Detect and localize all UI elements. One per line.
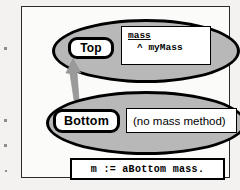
figure-frame: Top mass ^ myMass Bottom (no mass method… xyxy=(21,6,230,178)
class-label-bottom: Bottom xyxy=(53,109,120,133)
statement-box: m := aBottom mass. xyxy=(70,158,225,180)
method-body-label: ^ myMass xyxy=(128,42,210,54)
scan-margin-tick xyxy=(5,170,7,172)
method-box-top: mass ^ myMass xyxy=(121,26,211,65)
class-name-top: Top xyxy=(80,41,102,55)
class-label-top: Top xyxy=(68,37,114,59)
lookup-arrow-icon xyxy=(62,59,88,103)
no-method-note: (no mass method) xyxy=(133,115,226,127)
no-method-box-bottom: (no mass method) xyxy=(126,108,237,133)
scan-margin-tick xyxy=(4,47,7,50)
scan-margin-tick xyxy=(4,119,7,122)
class-name-bottom: Bottom xyxy=(64,114,109,128)
scan-margin-tick xyxy=(4,144,7,147)
statement-text: m := aBottom mass. xyxy=(91,164,204,175)
method-selector-label: mass xyxy=(128,30,210,42)
